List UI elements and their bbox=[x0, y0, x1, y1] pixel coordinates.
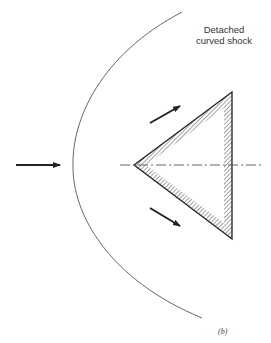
wedge-hatching bbox=[134, 92, 232, 239]
shock-label-line1: Detached bbox=[188, 24, 260, 35]
diagram-canvas: Detached curved shock (b) bbox=[0, 0, 271, 343]
upper-flow-arrow bbox=[150, 106, 180, 123]
wedge-body-outline bbox=[134, 92, 232, 239]
figure-caption: (b) bbox=[218, 327, 227, 336]
shock-diagram bbox=[0, 0, 271, 343]
shock-label: Detached curved shock bbox=[188, 24, 260, 46]
lower-flow-arrow bbox=[150, 208, 180, 226]
shock-label-line2: curved shock bbox=[188, 35, 260, 46]
